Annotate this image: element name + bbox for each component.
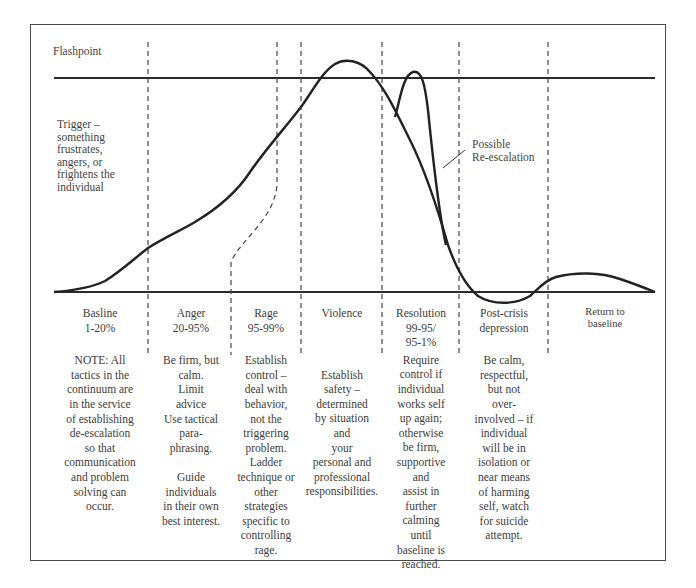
flashpoint-label: Flashpoint bbox=[53, 44, 102, 59]
phase-title: Rage 95-99% bbox=[232, 306, 300, 335]
phase-guidance: Establish control – deal with behavior, … bbox=[232, 353, 300, 557]
reescalation-leader bbox=[443, 150, 465, 168]
phase-title: Post-crisis depression bbox=[460, 306, 548, 335]
phase-title: Violence bbox=[302, 306, 382, 321]
phase-rage: Rage 95-99% Establish control – deal wit… bbox=[232, 306, 300, 558]
phase-title: Anger 20-95% bbox=[152, 306, 230, 335]
trigger-note: Trigger – something frustrates, angers, … bbox=[57, 118, 115, 194]
phase-resolution: Resolution 99-95/ 95-1% Require control … bbox=[383, 306, 459, 572]
phase-title: Return to baseline bbox=[560, 306, 650, 330]
phase-baseline: Basline 1-20% NOTE: All tactics in the c… bbox=[52, 306, 148, 514]
phase-guidance: Be firm, but calm. Limit advice Use tact… bbox=[152, 353, 230, 528]
phase-guidance: Be calm, respectful, but not over- invol… bbox=[460, 353, 548, 543]
phase-guidance: Require control if individual works self… bbox=[383, 353, 459, 572]
phase-guidance: Establish safety – determined by situati… bbox=[302, 368, 382, 499]
reescalation-label: Possible Re-escalation bbox=[472, 138, 535, 163]
phase-title: Resolution 99-95/ 95-1% bbox=[383, 306, 459, 350]
phase-title: Basline 1-20% bbox=[52, 306, 148, 335]
reescalation-curve bbox=[395, 72, 446, 245]
escalation-curve bbox=[54, 61, 655, 303]
phase-guidance: NOTE: All tactics in the continuum are i… bbox=[52, 353, 148, 514]
phase-violence: Violence Establish safety – determined b… bbox=[302, 306, 382, 499]
phase-post-crisis: Post-crisis depression Be calm, respectf… bbox=[460, 306, 548, 543]
phase-return-baseline: Return to baseline bbox=[560, 306, 650, 330]
phase-anger: Anger 20-95% Be firm, but calm. Limit ad… bbox=[152, 306, 230, 528]
